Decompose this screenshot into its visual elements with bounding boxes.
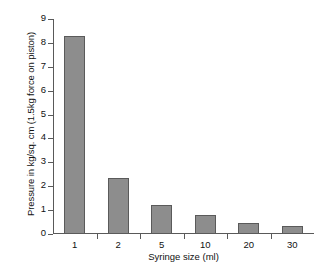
y-axis-tick-label: 0 [32, 228, 46, 238]
x-axis-tick-label: 2 [98, 239, 138, 250]
y-axis-tick-label: 6 [32, 85, 46, 95]
chart-figure: Pressure in kg/sq. cm (1.5kg force on pi… [0, 0, 330, 268]
x-axis-tick-label: 10 [185, 239, 225, 250]
y-axis-tick-label: 2 [32, 180, 46, 190]
y-axis-tick-label: 4 [32, 132, 46, 142]
y-axis-tick-label: 3 [32, 156, 46, 166]
x-axis-tick-label: 5 [142, 239, 182, 250]
bar [108, 178, 129, 234]
bar [238, 223, 259, 234]
x-axis-tick-label: 30 [272, 239, 312, 250]
bar [64, 36, 85, 234]
x-axis-title: Syringe size (ml) [53, 251, 314, 263]
x-axis-tick-label: 1 [55, 239, 95, 250]
y-axis-tick-label: 5 [32, 109, 46, 119]
plot-area [53, 19, 314, 234]
bar [151, 205, 172, 234]
y-axis-tick-label: 7 [32, 61, 46, 71]
y-axis-tick-label: 9 [32, 13, 46, 23]
x-axis-tick-label: 20 [229, 239, 269, 250]
y-axis-tick-mark [48, 234, 53, 235]
bar [195, 215, 216, 234]
y-axis-tick-label: 8 [32, 37, 46, 47]
bar [282, 226, 303, 234]
y-axis-tick-label: 1 [32, 204, 46, 214]
